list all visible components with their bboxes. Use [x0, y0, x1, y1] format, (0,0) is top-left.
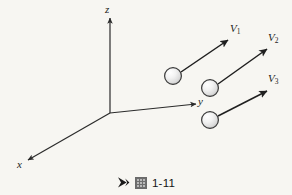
figure-canvas [0, 0, 292, 195]
figure-caption-text: 1-11 [152, 177, 175, 189]
figure-container: z y x V1 V2 V3 1-11 [0, 0, 292, 195]
cjk-figure-glyph-icon [135, 177, 147, 189]
velocity-vector-3-label-letter: V [268, 72, 275, 84]
velocity-vector-2-label: V2 [268, 32, 278, 44]
velocity-vector-2-label-letter: V [268, 31, 275, 43]
velocity-vector-1-label-subscript: 1 [237, 27, 241, 36]
velocity-vector-2-line [218, 49, 267, 84]
velocity-vector-3-label: V3 [268, 73, 278, 85]
velocity-vector-1-label-letter: V [230, 22, 237, 34]
velocity-vector-1-line [181, 40, 228, 72]
axis-label-z: z [105, 4, 109, 15]
ball-1 [165, 68, 182, 85]
particle-balls [165, 68, 219, 129]
velocity-vector-1-label: V1 [230, 23, 240, 35]
ball-3 [202, 112, 219, 129]
axis-y-line [110, 104, 196, 113]
figure-caption: 1-11 [0, 176, 292, 189]
axis-label-x: x [17, 159, 22, 170]
coordinate-axes [28, 18, 196, 160]
axis-label-y: y [198, 96, 203, 107]
velocity-vector-3-label-subscript: 3 [275, 77, 279, 86]
velocity-vector-3-line [218, 91, 267, 116]
velocity-vector-2-label-subscript: 2 [275, 36, 279, 45]
ball-2 [202, 80, 219, 97]
play-triangle-icon [117, 176, 130, 189]
axis-x-line [28, 113, 110, 160]
